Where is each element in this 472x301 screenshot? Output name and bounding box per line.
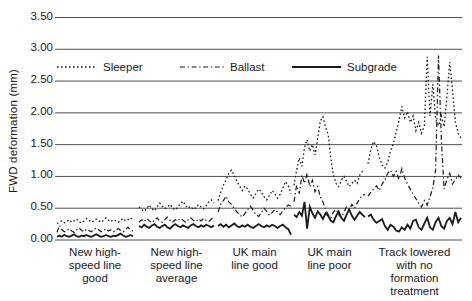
solid-line-swatch-icon xyxy=(292,60,341,74)
series-sleeper-line xyxy=(218,170,291,201)
category-label-line: average xyxy=(125,272,229,285)
series-ballast-line xyxy=(139,217,214,223)
y-tick-label: 1.00 xyxy=(19,168,53,181)
y-tick-label: 1.50 xyxy=(19,137,53,150)
series-subgrade-line xyxy=(139,224,214,229)
category-label: Track loweredwith noformationtreatment xyxy=(363,246,467,298)
series-subgrade-line xyxy=(218,224,291,235)
y-tick-label: 3.50 xyxy=(19,10,53,23)
category-label-line: with no xyxy=(363,259,467,272)
series-sleeper-line xyxy=(139,200,214,212)
legend-label: Subgrade xyxy=(347,61,397,73)
legend-item-sleeper: Sleeper xyxy=(57,60,143,74)
y-tick-label: 0.00 xyxy=(19,232,53,245)
y-tick-label: 3.00 xyxy=(19,41,53,54)
dotted-line-swatch-icon xyxy=(57,60,97,74)
category-label-line: treatment xyxy=(363,285,467,298)
legend-label: Ballast xyxy=(230,61,265,73)
legend-item-subgrade: Subgrade xyxy=(292,60,397,74)
y-tick-label: 2.50 xyxy=(19,73,53,86)
legend-item-ballast: Ballast xyxy=(180,60,265,74)
series-ballast-line xyxy=(368,56,461,207)
series-ballast-line xyxy=(218,196,291,217)
series-subgrade-line xyxy=(368,212,461,232)
series-subgrade-line xyxy=(57,234,133,237)
y-tick-label: 0.50 xyxy=(19,200,53,213)
legend-label: Sleeper xyxy=(103,61,143,73)
category-label-line: Track lowered xyxy=(363,246,467,259)
dashdot-line-swatch-icon xyxy=(180,60,224,74)
series-sleeper-line xyxy=(57,218,133,224)
y-tick-label: 2.00 xyxy=(19,105,53,118)
category-label-line: formation xyxy=(363,272,467,285)
fwd-deformation-chart: FWD deformation (mm) 3.503.002.502.001.5… xyxy=(0,0,472,301)
series-ballast-line xyxy=(57,225,133,232)
